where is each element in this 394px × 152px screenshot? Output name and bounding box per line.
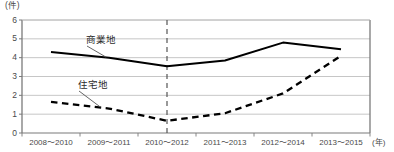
x-axis-tick-label: 2011～2013: [196, 138, 254, 147]
chart-plot-area: [0, 0, 394, 152]
y-axis-tick-label: 1: [3, 110, 17, 119]
x-axis-unit-label: (年): [372, 138, 385, 147]
y-axis-tick-label: 4: [3, 53, 17, 62]
gridlines: [22, 20, 370, 114]
y-axis-tick-label: 5: [3, 34, 17, 43]
x-axis-tick-label: 2010～2012: [138, 138, 196, 147]
series-label-commercial: 商業地: [86, 34, 116, 45]
x-axis-tick-label: 2009～2011: [80, 138, 138, 147]
x-axis-tick-label: 2012～2014: [254, 138, 312, 147]
y-axis-tick-label: 6: [3, 16, 17, 25]
series-line-1: [51, 43, 341, 67]
y-axis-tick-label: 3: [3, 72, 17, 81]
series-label-residential: 住宅地: [78, 79, 108, 90]
x-axis-tick-label: 2013～2015: [312, 138, 370, 147]
y-axis-tick-label: 0: [3, 129, 17, 138]
x-axis-tick-label: 2008～2010: [22, 138, 80, 147]
y-axis-tick-label: 2: [3, 91, 17, 100]
line-chart: (件) 0123456 2008～20102009～20112010～20122…: [0, 0, 394, 152]
